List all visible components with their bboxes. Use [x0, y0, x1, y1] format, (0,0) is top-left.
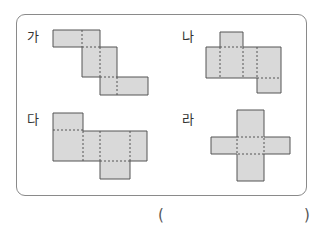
answer-close-paren: ): [304, 208, 310, 223]
answer-open-paren: (: [158, 208, 164, 223]
net-da-outline: [53, 113, 147, 179]
net-ra: [211, 110, 290, 181]
net-na: [206, 32, 281, 93]
nets-diagram: [0, 0, 324, 234]
net-na-outline: [206, 32, 281, 93]
net-da: [53, 113, 147, 179]
net-ga: [53, 30, 148, 95]
answer-blank[interactable]: [170, 208, 300, 224]
net-ra-outline: [211, 110, 290, 181]
net-ga-outline: [53, 30, 148, 95]
